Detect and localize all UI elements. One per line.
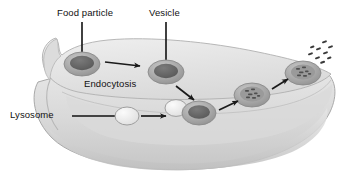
label-lysosome: Lysosome [10,110,54,120]
label-vesicle: Vesicle [149,8,180,18]
cell-diagram-svg [0,0,340,180]
digestion-vesicle [234,83,270,107]
food-particle-vesicle [64,52,100,76]
label-endocytosis: Endocytosis [84,79,136,89]
lysosome-body [115,107,139,125]
exocytosis-vesicle [285,61,321,85]
diagram-canvas: Food particle Vesicle Endocytosis Lysoso… [0,0,340,180]
internal-vesicle [148,60,184,84]
released-particles [308,40,333,64]
label-food-particle: Food particle [57,8,113,18]
